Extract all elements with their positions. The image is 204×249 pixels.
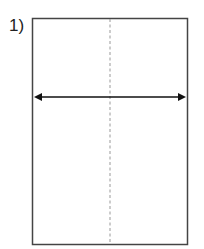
diagram-canvas	[0, 0, 204, 249]
